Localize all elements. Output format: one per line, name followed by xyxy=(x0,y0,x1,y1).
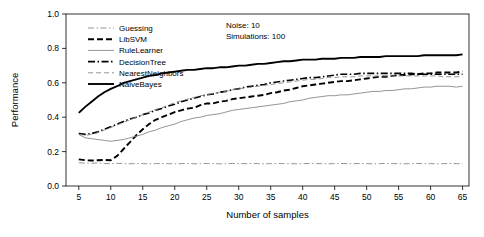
legend-label-guessing: Guessing xyxy=(119,24,153,33)
x-tick-label: 35 xyxy=(266,192,276,202)
x-tick-label: 65 xyxy=(458,192,468,202)
x-axis-title: Number of samples xyxy=(226,209,309,220)
series-line-guessing xyxy=(79,163,463,164)
x-tick-label: 60 xyxy=(426,192,436,202)
annotation-2: Simulations: 100 xyxy=(226,32,286,41)
x-tick-label: 10 xyxy=(106,192,116,202)
performance-line-chart: 0.00.20.40.60.81.05101520253035404550556… xyxy=(0,0,484,237)
annotation-1: Noise: 10 xyxy=(226,21,260,30)
y-tick-label: 0.2 xyxy=(47,147,59,157)
x-tick-label: 50 xyxy=(362,192,372,202)
y-axis-title: Performance xyxy=(9,73,20,127)
x-tick-label: 5 xyxy=(76,192,81,202)
x-tick-label: 45 xyxy=(330,192,340,202)
x-tick-label: 25 xyxy=(202,192,212,202)
y-tick-label: 0.0 xyxy=(47,181,59,191)
x-tick-label: 20 xyxy=(170,192,180,202)
chart-container: 0.00.20.40.60.81.05101520253035404550556… xyxy=(0,0,484,237)
x-tick-label: 15 xyxy=(138,192,148,202)
y-tick-label: 0.8 xyxy=(47,43,59,53)
x-tick-label: 30 xyxy=(234,192,244,202)
y-tick-label: 0.4 xyxy=(47,112,59,122)
legend-label-decisiontree: DecisionTree xyxy=(119,58,166,67)
legend-label-naivebayes: NaiveBayes xyxy=(119,80,162,89)
y-tick-label: 1.0 xyxy=(47,9,59,19)
y-tick-label: 0.6 xyxy=(47,78,59,88)
legend-label-rulelearner: RuleLearner xyxy=(119,46,163,55)
x-tick-label: 40 xyxy=(298,192,308,202)
legend-label-libsvm: LibSVM xyxy=(119,35,147,44)
legend-label-nearestneighbors: NearestNeighbors xyxy=(119,69,183,78)
series-line-rulelearner xyxy=(79,86,463,141)
x-tick-label: 55 xyxy=(394,192,404,202)
